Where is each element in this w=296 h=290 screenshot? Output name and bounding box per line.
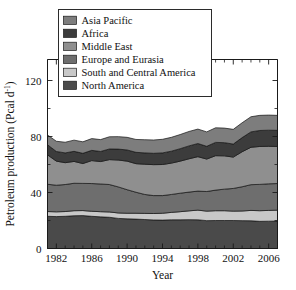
legend-swatch	[64, 55, 77, 63]
chart-legend: Asia PacificAfricaMiddle EastEurope and …	[59, 10, 212, 97]
legend-item[interactable]: Middle East	[64, 41, 133, 52]
x-tick-label: 1994	[152, 252, 175, 264]
legend-label: Africa	[82, 28, 109, 39]
legend-label: Middle East	[82, 41, 133, 52]
legend-label: Asia Pacific	[82, 15, 133, 26]
legend-item[interactable]: Asia Pacific	[64, 15, 133, 26]
legend-swatch	[64, 68, 77, 76]
legend-label: South and Central America	[82, 67, 196, 78]
legend-item[interactable]: Africa	[64, 28, 109, 39]
y-tick-label: 80	[31, 131, 43, 143]
legend-label: North America	[82, 80, 145, 91]
x-tick-label: 1986	[81, 252, 104, 264]
petroleum-production-figure: 04080120 1982198619901994199820022006 Pe…	[0, 0, 296, 290]
x-axis-title: Year	[152, 269, 173, 281]
stacked-area-chart: 04080120 1982198619901994199820022006 Pe…	[0, 0, 296, 290]
legend-item[interactable]: South and Central America	[64, 67, 196, 78]
y-axis-title: Petroleum production (Pcal d-1)	[3, 81, 18, 226]
y-tick-label: 40	[31, 187, 43, 199]
y-axis-title-text: Petroleum production (Pcal d-1)	[3, 81, 18, 226]
x-tick-label: 1998	[187, 252, 210, 264]
legend-swatch	[64, 42, 77, 50]
legend-item[interactable]: North America	[64, 80, 145, 91]
x-tick-label: 2002	[222, 252, 244, 264]
legend-swatch	[64, 16, 77, 24]
x-tick-label: 2006	[258, 252, 281, 264]
y-tick-label: 120	[25, 75, 42, 87]
legend-swatch	[64, 29, 77, 37]
x-tick-label: 1982	[45, 252, 67, 264]
y-tick-label: 0	[36, 243, 42, 255]
legend-swatch	[64, 81, 77, 89]
legend-label: Europe and Eurasia	[82, 54, 165, 65]
x-tick-label: 1990	[116, 252, 139, 264]
